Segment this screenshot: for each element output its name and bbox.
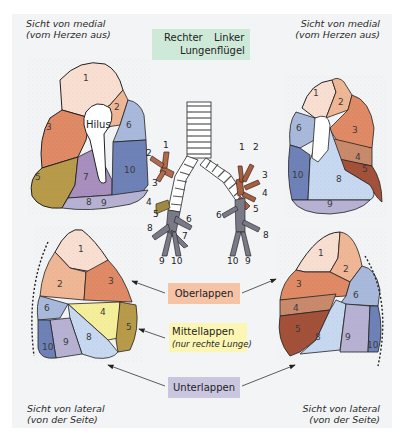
mittellappen-note: (nur rechte Lunge) (172, 338, 247, 350)
svg-text:10: 10 (171, 256, 183, 266)
svg-text:3: 3 (108, 276, 114, 286)
svg-text:7: 7 (83, 172, 89, 182)
lung-segments-artwork: Hilus 1 2 3 5 6 7 8 9 10 (0, 0, 405, 439)
svg-text:8: 8 (263, 230, 269, 240)
svg-text:1: 1 (78, 244, 84, 254)
svg-text:2: 2 (146, 148, 152, 158)
label-unterlappen: Unterlappen (168, 377, 240, 398)
arrow-ober-right (242, 279, 276, 293)
trachea (187, 102, 211, 158)
bronchial-tree: 1 2 3 4 5 6 7 8 9 10 1 2 3 4 5 6 8 9 10 (146, 102, 269, 266)
svg-text:9: 9 (63, 337, 69, 347)
svg-text:5: 5 (153, 209, 159, 219)
label-oberlappen: Oberlappen (168, 283, 240, 304)
svg-text:10: 10 (227, 256, 239, 266)
svg-text:1: 1 (83, 73, 89, 83)
svg-text:3: 3 (262, 170, 268, 180)
svg-text:1: 1 (239, 142, 245, 152)
svg-text:4: 4 (146, 197, 152, 207)
label-mittellappen: Mittellappen (nur rechte Lunge) (169, 323, 247, 352)
svg-text:9: 9 (159, 256, 165, 266)
arrow-mittel-left (139, 329, 165, 338)
svg-text:3: 3 (46, 122, 52, 132)
mittellappen-label: Mittellappen (172, 326, 234, 337)
svg-text:6: 6 (126, 120, 132, 130)
svg-text:4: 4 (100, 307, 106, 317)
svg-text:9: 9 (327, 199, 333, 209)
svg-text:5: 5 (295, 324, 301, 334)
svg-text:6: 6 (353, 290, 359, 300)
svg-text:1: 1 (313, 88, 319, 98)
svg-text:1: 1 (163, 140, 169, 150)
svg-text:5: 5 (362, 164, 368, 174)
svg-text:3: 3 (152, 178, 158, 188)
svg-text:2: 2 (114, 102, 120, 112)
arrow-unter-right (242, 365, 295, 386)
svg-text:9: 9 (245, 256, 251, 266)
svg-text:4: 4 (262, 188, 268, 198)
arrow-unter-left (108, 365, 165, 386)
svg-text:6: 6 (186, 214, 192, 224)
svg-text:4: 4 (293, 303, 299, 313)
svg-text:10: 10 (42, 342, 54, 352)
svg-text:2: 2 (253, 142, 259, 152)
left-lung-medial-view: 1 2 3 4 5 6 8 9 10 (285, 75, 385, 217)
svg-text:2: 2 (57, 279, 63, 289)
svg-text:5: 5 (253, 204, 259, 214)
svg-text:3: 3 (296, 279, 302, 289)
right-lung-medial-view: Hilus 1 2 3 5 6 7 8 9 10 (28, 58, 150, 214)
svg-text:8: 8 (86, 332, 92, 342)
svg-text:10: 10 (367, 340, 379, 350)
svg-text:6: 6 (44, 303, 50, 313)
svg-text:6: 6 (216, 210, 222, 220)
svg-text:8: 8 (315, 332, 321, 342)
svg-text:5: 5 (126, 322, 132, 332)
svg-text:4: 4 (355, 152, 361, 162)
svg-text:8: 8 (86, 197, 92, 207)
svg-text:8: 8 (336, 174, 342, 184)
svg-text:10: 10 (124, 165, 136, 175)
svg-text:6: 6 (296, 123, 302, 133)
svg-text:9: 9 (101, 198, 107, 208)
svg-text:8: 8 (147, 223, 153, 233)
svg-text:2: 2 (343, 264, 349, 274)
svg-text:10: 10 (292, 170, 304, 180)
right-lung-lateral-view: 1 2 3 4 5 6 8 9 10 (32, 226, 142, 362)
svg-text:2: 2 (338, 97, 344, 107)
svg-text:9: 9 (345, 332, 351, 342)
hilus-label: Hilus (86, 119, 111, 130)
left-lung-lateral-view: 1 2 3 4 5 6 8 9 10 (278, 230, 386, 366)
svg-text:5: 5 (35, 172, 41, 182)
svg-text:1: 1 (318, 248, 324, 258)
svg-text:7: 7 (182, 231, 188, 241)
svg-text:3: 3 (352, 125, 358, 135)
